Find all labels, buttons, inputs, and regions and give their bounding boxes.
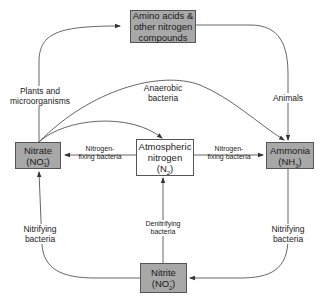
amino-line3: compounds bbox=[138, 32, 187, 43]
atmospheric-formula: (N2) bbox=[157, 163, 174, 174]
label-nitrifying-bacteria-right: Nitrifying bacteria bbox=[266, 224, 310, 244]
label-denitrifying-bacteria: Denitrifying bacteria bbox=[138, 220, 188, 236]
nitrite-formula: (NO−2) bbox=[152, 278, 175, 289]
label-animals: Animals bbox=[268, 93, 308, 103]
atmospheric-line2: nitrogen bbox=[148, 152, 182, 163]
label-nitrifying-bacteria-left: Nitrifying bacteria bbox=[18, 224, 62, 244]
amino-line2: other nitrogen bbox=[134, 21, 193, 32]
label-nitrogen-fixing-right: Nitrogen- fixing bacteria bbox=[201, 145, 257, 161]
arrow-nitrate-to-amino bbox=[39, 26, 120, 142]
node-ammonia: Ammonia (NH3) bbox=[266, 142, 314, 169]
label-plants-microorganisms: Plants and microorganisms bbox=[4, 86, 76, 106]
atmospheric-line1: Atmospheric bbox=[139, 141, 192, 152]
node-nitrate: Nitrate (NO−3) bbox=[15, 142, 61, 169]
ammonia-name: Ammonia bbox=[270, 145, 310, 156]
nitrate-formula: (NO−3) bbox=[26, 156, 49, 167]
arrow-amino-to-ammonia bbox=[195, 25, 288, 140]
node-nitrite: Nitrite (NO−2) bbox=[140, 263, 187, 293]
ammonia-formula: (NH3) bbox=[278, 156, 301, 167]
nitrate-name: Nitrate bbox=[24, 145, 52, 156]
amino-line1: Amino acids & bbox=[133, 10, 194, 21]
node-amino-acids: Amino acids & other nitrogen compounds bbox=[130, 10, 196, 43]
arrow-ammonia-to-nitrite bbox=[190, 168, 288, 278]
label-nitrogen-fixing-left: Nitrogen- fixing bacteria bbox=[72, 145, 128, 161]
label-anaerobic-bacteria: Anaerobic bacteria bbox=[138, 83, 188, 103]
nitrite-name: Nitrite bbox=[151, 267, 176, 278]
node-atmospheric-nitrogen: Atmospheric nitrogen (N2) bbox=[136, 139, 194, 176]
